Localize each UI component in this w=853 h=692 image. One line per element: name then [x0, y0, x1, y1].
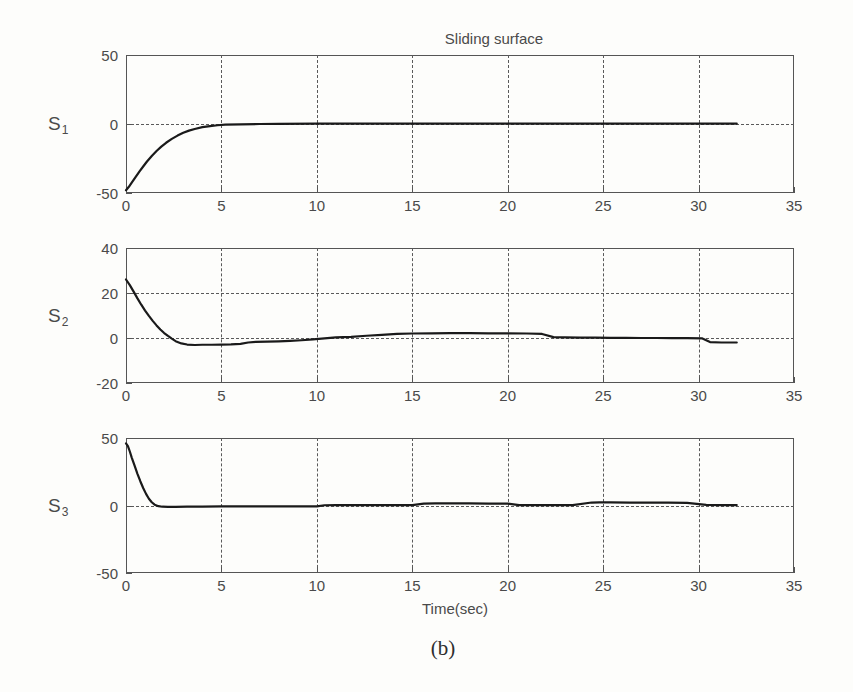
subplot-s1: 05101520253035-50050 [126, 55, 794, 193]
subplot-label-base: S [48, 113, 61, 134]
subplot-label-subscript: 2 [62, 315, 69, 329]
x-tick-label: 35 [786, 387, 803, 404]
x-tick-label: 5 [217, 577, 225, 594]
y-tick-label: -50 [70, 565, 118, 582]
x-axis-title: Time(sec) [422, 600, 488, 617]
y-tick-mark [126, 573, 132, 574]
series-line-s3 [126, 443, 737, 506]
x-tick-label: 35 [786, 197, 803, 214]
x-tick-label: 15 [404, 577, 421, 594]
x-tick-label: 20 [499, 197, 516, 214]
y-tick-label: -50 [70, 185, 118, 202]
subplot-label-s2: S2 [48, 305, 67, 327]
y-tick-label: 0 [70, 330, 118, 347]
y-tick-label: 50 [70, 47, 118, 64]
x-tick-label: 15 [404, 197, 421, 214]
x-tick-label: 25 [595, 387, 612, 404]
x-tick-label: 25 [595, 577, 612, 594]
x-tick-label: 10 [309, 197, 326, 214]
subplot-s2: 05101520253035-2002040 [126, 248, 794, 383]
x-tick-label: 0 [122, 197, 130, 214]
x-tick-label: 30 [690, 577, 707, 594]
y-tick-label: 50 [70, 430, 118, 447]
y-tick-mark [126, 383, 132, 384]
subplot-label-s3: S3 [48, 495, 67, 517]
x-tick-label: 20 [499, 387, 516, 404]
subplot-label-s1: S1 [48, 113, 67, 135]
x-tick-mark [794, 377, 795, 383]
x-tick-label: 20 [499, 577, 516, 594]
y-tick-label: -20 [70, 375, 118, 392]
x-tick-label: 0 [122, 387, 130, 404]
x-tick-label: 10 [309, 577, 326, 594]
subplot-s3: 05101520253035-50050 [126, 438, 794, 573]
x-tick-label: 0 [122, 577, 130, 594]
figure-title: Sliding surface [445, 30, 543, 47]
series-line-s2 [126, 280, 737, 345]
x-tick-label: 30 [690, 387, 707, 404]
x-tick-label: 5 [217, 387, 225, 404]
x-tick-label: 35 [786, 577, 803, 594]
y-tick-label: 0 [70, 116, 118, 133]
subplot-label-subscript: 3 [62, 505, 69, 519]
x-tick-label: 10 [309, 387, 326, 404]
x-tick-mark [794, 567, 795, 573]
x-tick-mark [794, 187, 795, 193]
series-line-s1 [126, 124, 737, 191]
x-tick-label: 5 [217, 197, 225, 214]
y-tick-label: 40 [70, 240, 118, 257]
y-tick-label: 0 [70, 497, 118, 514]
subplot-label-base: S [48, 495, 61, 516]
series-canvas [126, 248, 794, 383]
subplot-label-base: S [48, 305, 61, 326]
figure-caption: (b) [431, 636, 456, 661]
x-tick-label: 25 [595, 197, 612, 214]
x-tick-label: 30 [690, 197, 707, 214]
x-tick-label: 15 [404, 387, 421, 404]
y-tick-label: 20 [70, 285, 118, 302]
figure-sliding-surface: Sliding surface 05101520253035-500500510… [0, 0, 853, 692]
subplot-label-subscript: 1 [62, 123, 69, 137]
series-canvas [126, 438, 794, 573]
series-canvas [126, 55, 794, 193]
y-tick-mark [126, 193, 132, 194]
